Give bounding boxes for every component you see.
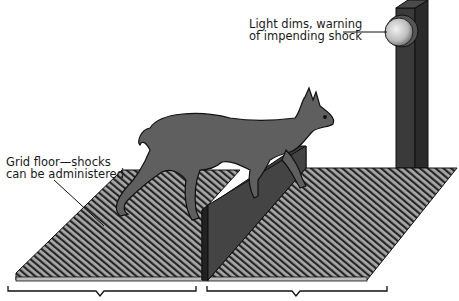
left-bracket — [8, 286, 196, 296]
light-label: Light dims, warning of impending shock — [249, 18, 362, 42]
right-bracket — [207, 286, 387, 296]
grid-floor-label: Grid floor—shocks can be administered — [6, 156, 124, 180]
warning-light — [385, 15, 418, 47]
light-label-line2: of impending shock — [249, 30, 362, 42]
grid-label-line2: can be administered — [6, 168, 124, 180]
shuttle-box-diagram — [0, 0, 459, 301]
